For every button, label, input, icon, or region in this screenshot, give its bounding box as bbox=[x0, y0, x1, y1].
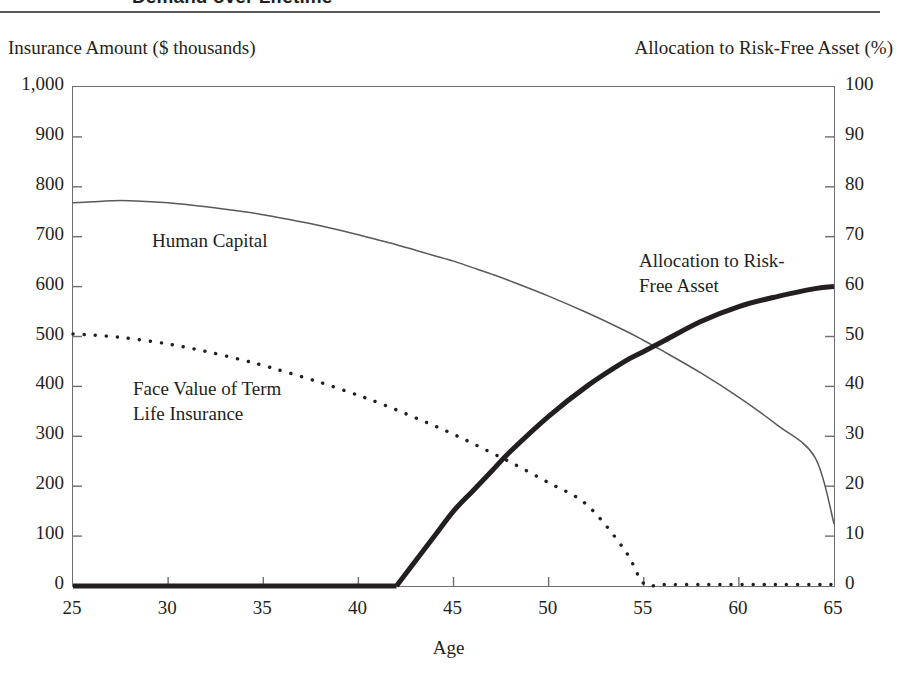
series-label-allocation: Allocation to Risk- Free Asset bbox=[639, 248, 785, 298]
x-axis-title: Age bbox=[0, 637, 897, 659]
x-tick-label: 30 bbox=[137, 597, 197, 619]
series-allocation-line bbox=[73, 287, 834, 586]
plot-area bbox=[72, 86, 835, 587]
series-label-human-capital: Human Capital bbox=[152, 228, 268, 253]
x-tick-label: 25 bbox=[42, 597, 102, 619]
series-label-allocation-line1: Allocation to Risk- bbox=[639, 248, 785, 273]
series-label-face-value: Face Value of Term Life Insurance bbox=[133, 376, 281, 426]
x-tick-label: 65 bbox=[803, 597, 863, 619]
series-face-value-line bbox=[73, 334, 834, 586]
x-tick-label: 55 bbox=[613, 597, 673, 619]
x-tick-label: 60 bbox=[708, 597, 768, 619]
x-tick-label: 35 bbox=[232, 597, 292, 619]
series-label-face-value-line2: Life Insurance bbox=[133, 401, 281, 426]
series-label-allocation-line2: Free Asset bbox=[639, 273, 785, 298]
x-tick-label: 40 bbox=[327, 597, 387, 619]
chart-canvas bbox=[73, 87, 834, 586]
series-label-face-value-line1: Face Value of Term bbox=[133, 376, 281, 401]
x-tick-label: 45 bbox=[423, 597, 483, 619]
x-tick-label: 50 bbox=[518, 597, 578, 619]
